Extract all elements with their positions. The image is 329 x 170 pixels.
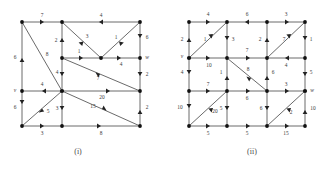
edge-diag-d1-m1	[101, 22, 140, 58]
weight-1b: 1	[78, 48, 81, 54]
edge-diag-b2-d3	[62, 58, 140, 91]
weight-ii-2a: 2	[181, 36, 184, 42]
node-r3c4	[303, 89, 307, 93]
arrow-row3-a3v	[42, 89, 46, 94]
edge-diag-r2c3-r1c4	[267, 22, 305, 58]
node-r2c1	[187, 56, 191, 60]
node-d2	[138, 56, 142, 60]
arrow-c4-down	[303, 36, 308, 40]
node-r4c2	[225, 124, 229, 128]
arrow-row3-vd3	[106, 89, 110, 94]
weight-15: 15	[90, 103, 96, 109]
weight-20: 20	[99, 94, 105, 100]
weight-ii-7c: 7	[207, 81, 210, 87]
arrow-col-d-up	[138, 34, 143, 38]
arrow-r2-c3c4	[285, 56, 289, 61]
vertex-ii-w: w	[310, 87, 314, 93]
arrow-diag-b1m1	[79, 42, 84, 47]
weight-ii-8: 8	[247, 66, 250, 72]
node-r3c3	[265, 89, 269, 93]
arrow-r2-c1c2	[206, 56, 210, 61]
node-b2	[60, 56, 64, 60]
arrow-r4-c2c3	[246, 124, 250, 129]
arrow-c2-down4	[225, 106, 230, 110]
weight-ii-6b: 6	[246, 95, 249, 101]
node-v	[60, 89, 64, 93]
weight-ii-6a: 6	[272, 69, 275, 75]
weight-ii-4a: 4	[285, 62, 288, 68]
arrow-bot-a4b4	[40, 124, 44, 129]
node-a3	[20, 89, 24, 93]
node-r1c3	[265, 20, 269, 24]
node-d4	[138, 124, 142, 128]
figure-root: 7 4 2 3 1 6 8 1 4 w 6 4 7 2 4 v 20 6 5 3…	[0, 0, 329, 170]
weight-ii-4: 4	[207, 11, 210, 17]
weight-ii-5c: 5	[207, 130, 210, 136]
node-r4c4	[303, 124, 307, 128]
weight-ii-4b: 4	[181, 69, 184, 75]
weight-3: 3	[86, 33, 89, 39]
arrow-col-b-up	[60, 38, 65, 42]
weight-ii-20: 20	[212, 108, 218, 114]
weight-4b: 4	[56, 69, 59, 75]
vertex-ii-v: v	[181, 53, 184, 59]
weight-8b: 8	[100, 130, 103, 136]
arrow-r3-c3c4	[285, 89, 289, 94]
weight-ii-5a: 5	[310, 69, 313, 75]
arrow-c1-down2	[187, 70, 192, 74]
arrow-mid-b2m1	[79, 56, 83, 61]
node-a1	[20, 20, 24, 24]
weight-top-7: 7	[41, 12, 44, 18]
network-diagram-i: 7 4 2 3 1 6 8 1 4 w 6 4 7 2 4 v 20 6 5 3…	[0, 0, 165, 145]
weight-4c: 4	[41, 81, 44, 87]
arrow-r2-c2c3	[246, 56, 250, 61]
weight-6c: 6	[14, 104, 17, 110]
node-r4c3	[265, 124, 269, 128]
node-r4c1	[187, 124, 191, 128]
weight-1a: 1	[115, 34, 118, 40]
weight-2: 2	[55, 37, 58, 43]
arrow-col-b-low	[60, 106, 65, 110]
arrow-c1-up	[187, 38, 192, 42]
weight-6a: 6	[146, 34, 149, 40]
node-r2c4	[303, 56, 307, 60]
weight-ii-1b: 1	[310, 36, 313, 42]
weight-2b: 2	[146, 71, 149, 77]
edge-diag-r4c3-r3c4	[267, 91, 305, 126]
node-r2c3	[265, 56, 269, 60]
arrow-c3-down4	[265, 106, 270, 110]
weight-ii-7a: 7	[283, 36, 286, 42]
weight-4a: 4	[120, 61, 123, 67]
node-r3c1	[187, 89, 191, 93]
arrow-top-left	[40, 20, 44, 25]
weight-ii-1c: 1	[220, 69, 223, 75]
arrow-r1-c3c4	[285, 20, 289, 25]
weight-ii-10b: 10	[177, 104, 183, 110]
arrow-c3-up	[265, 38, 270, 42]
node-m1	[99, 56, 103, 60]
weight-ii-7b: 7	[246, 47, 249, 53]
weight-ii-10c: 10	[310, 105, 316, 111]
arrow-col-d-low	[138, 110, 143, 114]
node-r1c1	[187, 20, 191, 24]
weight-5: 5	[47, 108, 50, 114]
vertex-w: w	[145, 54, 149, 60]
arrow-r1-c1c2	[206, 20, 210, 25]
weight-ii-15: 15	[283, 130, 289, 136]
arrow-r4-c1c2	[206, 124, 210, 129]
caption-panel-i: (i)	[58, 147, 98, 156]
weight-ii-6c: 6	[260, 105, 263, 111]
node-r1c2	[225, 20, 229, 24]
weight-ii-3b: 3	[285, 81, 288, 87]
weight-8: 8	[46, 51, 49, 57]
edge-diag-b1-m1	[62, 22, 101, 58]
weight-7: 7	[97, 75, 100, 81]
arrow-r1-c2c3	[245, 20, 249, 25]
weight-ii-3a: 3	[232, 36, 235, 42]
network-diagram-ii: 4 6 3 2 1 3 2 7 1 v 10 7 4 4 1 8 6 5 7 6…	[165, 0, 329, 145]
arrow-left-up	[20, 58, 25, 62]
arrow-c4-down3	[303, 72, 308, 76]
weight-ii-6: 6	[246, 11, 249, 17]
arrow-r3-c2c3	[246, 89, 250, 94]
weight-2c: 2	[146, 104, 149, 110]
